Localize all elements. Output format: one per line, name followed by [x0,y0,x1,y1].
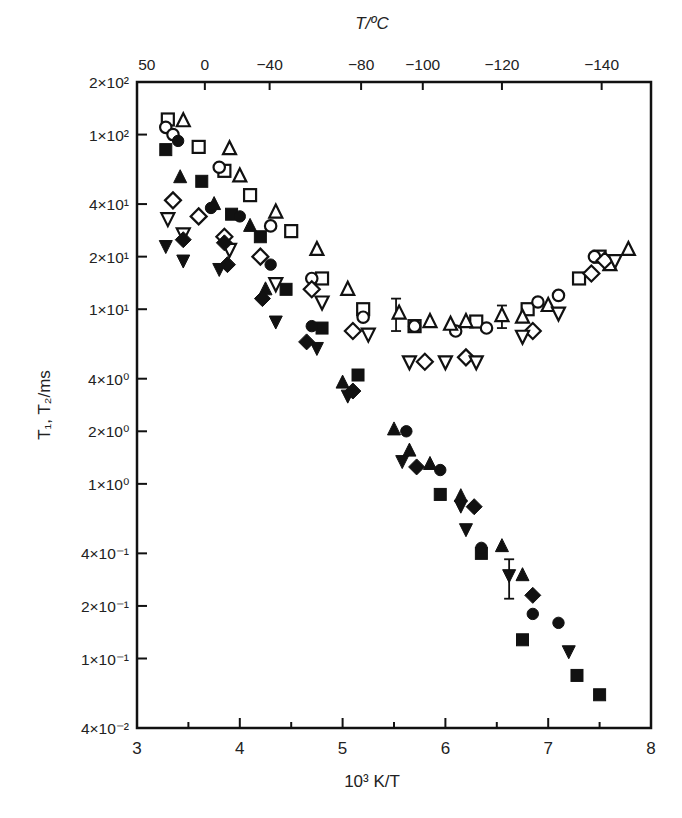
square-marker [517,634,529,646]
top-tick-label: −120 [484,56,519,73]
y-tick-label: 1×10⁻¹ [81,651,129,668]
y-tick-label: 4×10¹ [89,196,129,213]
x-tick-label: 6 [441,739,450,758]
y-tick-label: 4×10⁻² [81,720,129,737]
y-tick-label: 4×10⁻¹ [81,545,129,562]
triangle-down-marker [552,308,565,321]
triangle-up-marker [269,205,282,218]
plot-border [137,82,651,728]
circle-marker [553,290,564,301]
plot-frame [137,82,651,728]
triangle-up-marker [244,218,257,231]
triangle-down-marker [161,213,174,226]
triangle-down-marker [516,331,529,344]
square-marker [193,141,205,153]
y-tick-label: 1×10⁰ [88,476,129,493]
circle-marker [172,135,183,146]
triangle-up-marker [495,539,508,552]
triangle-up-marker [310,242,323,255]
diamond-marker [165,192,181,208]
bottom-axis-title: 10³ K/T [344,772,400,791]
y-tick-label: 2×10² [89,74,129,91]
square-marker [160,144,172,156]
circle-marker [532,296,543,307]
triangle-down-marker [439,356,452,369]
triangle-up-marker [177,113,190,126]
y-tick-label: 4×10⁰ [88,371,129,388]
triangle-down-marker [562,646,575,659]
triangle-up-marker [423,456,436,469]
circle-marker [435,464,446,475]
left-axis-title: T₁, T₂/ms [35,370,54,440]
triangle-down-marker [159,241,172,254]
x-tick-label: 8 [646,739,655,758]
top-tick-label: 50 [138,56,156,73]
circle-marker [265,220,276,231]
diamond-marker [345,323,361,339]
triangle-up-marker [336,375,349,388]
circle-marker [357,312,368,323]
circle-marker [553,617,564,628]
triangle-up-marker [174,170,187,183]
x-tick-label: 4 [235,739,244,758]
triangle-up-marker [403,443,416,456]
x-tick-label: 5 [338,739,347,758]
diamond-marker [525,587,541,603]
top-tick-label: 0 [201,56,210,73]
triangle-up-marker [223,141,236,154]
x-tick-label: 7 [543,739,552,758]
triangle-up-marker [423,314,436,327]
triangle-up-marker [622,242,635,255]
triangle-up-marker [495,308,508,321]
triangle-up-marker [233,168,246,181]
y-tick-label: 1×10¹ [89,301,129,318]
square-marker [285,225,297,237]
circle-marker [476,542,487,553]
scatter-chart: 3456782×10²1×10²4×10¹2×10¹1×10¹4×10⁰2×10… [0,0,682,818]
circle-marker [409,320,420,331]
diamond-marker [409,459,425,475]
circle-marker [214,162,225,173]
triangle-up-marker [341,282,354,295]
y-tick-label: 2×10⁻¹ [81,598,129,615]
diamond-marker [191,208,207,224]
triangle-down-marker [310,342,323,355]
circle-marker [401,426,412,437]
circle-marker [265,259,276,270]
triangle-down-marker [396,456,409,469]
triangle-up-marker [444,317,457,330]
square-marker [571,669,583,681]
triangle-down-marker [503,570,516,583]
square-marker [280,283,292,295]
diamond-marker [299,334,315,350]
diamond-marker [466,499,482,515]
triangle-down-marker [213,263,226,276]
square-marker [244,189,256,201]
square-marker [352,369,364,381]
diamond-marker [417,354,433,370]
triangle-down-marker [454,500,467,513]
triangle-down-marker [362,329,375,342]
triangle-down-marker [403,356,416,369]
data-points [159,113,635,701]
square-marker [316,322,328,334]
triangle-down-marker [470,356,483,369]
y-tick-label: 2×10¹ [89,249,129,266]
triangle-down-marker [459,524,472,537]
triangle-up-marker [516,568,529,581]
top-axis-title: T/ºC [355,14,389,33]
triangle-down-marker [269,316,282,329]
diamond-marker [175,232,191,248]
top-tick-label: −40 [256,56,283,73]
triangle-up-marker [388,422,401,435]
y-tick-label: 1×10² [89,127,129,144]
top-tick-label: −140 [584,56,619,73]
square-marker [434,488,446,500]
square-marker [196,175,208,187]
triangle-up-marker [393,306,406,319]
x-tick-label: 3 [132,739,141,758]
triangle-down-marker [177,255,190,268]
top-tick-label: −80 [348,56,375,73]
square-marker [594,689,606,701]
circle-marker [234,211,245,222]
